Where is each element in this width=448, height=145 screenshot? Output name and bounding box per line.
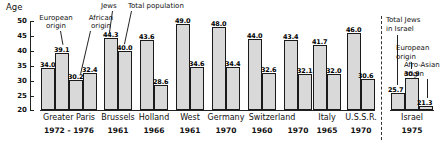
- group-year-greater-paris: 1972 - 1976: [34, 126, 104, 135]
- group-year-holland: 1966: [134, 126, 174, 135]
- y-tick-20: 20: [13, 106, 27, 114]
- bar-value: 34.6: [189, 60, 204, 68]
- group-year-ussr: 1970: [341, 126, 381, 135]
- bar-value: 40.0: [117, 44, 132, 52]
- bar-greater-paris-european-total: [55, 53, 69, 110]
- bar-value: 41.7: [312, 38, 327, 46]
- bar-west-total: [190, 67, 204, 110]
- bar-value: 21.3: [417, 99, 432, 107]
- annotation-jews: Jews: [101, 2, 117, 11]
- bar-switzerland-1970-jews: [284, 40, 298, 110]
- annotation-european-origin-left-line2: origin: [33, 22, 79, 31]
- bar-ussr-total: [361, 79, 375, 110]
- x-axis-baseline: [40, 110, 375, 111]
- group-year-israel: 1975: [392, 126, 432, 135]
- y-tick-25: 25: [13, 92, 27, 100]
- leader-total-population: [124, 11, 132, 44]
- bar-value: 28.6: [153, 78, 168, 86]
- bar-brussels-jews: [104, 38, 118, 110]
- group-label-ussr: U.S.S.R.: [341, 113, 381, 122]
- bar-holland-total: [154, 85, 168, 110]
- bar-value: 48.0: [211, 20, 226, 28]
- y-tickmark-20: [31, 110, 34, 111]
- group-year-switzerland-1960: 1960: [242, 126, 282, 135]
- annotation-afro-asian-origin-israel-line2: origin: [404, 70, 424, 79]
- y-tick-45: 45: [13, 32, 27, 40]
- group-label-germany: Germany: [206, 113, 246, 122]
- bar-brussels-total: [118, 51, 132, 110]
- annotation-european-origin-israel-line1: European: [396, 44, 429, 53]
- bar-italy-jews: [313, 45, 327, 110]
- bar-value: 32.0: [326, 67, 341, 75]
- group-label-israel: Israel: [392, 113, 432, 122]
- group-label-holland: Holland: [134, 113, 174, 122]
- y-tickmark-45: [31, 36, 34, 37]
- bar-greater-paris-african-jews: [69, 80, 83, 110]
- y-tick-40: 40: [13, 47, 27, 55]
- bar-value: 44.3: [103, 31, 118, 39]
- y-tick-50: 50: [13, 17, 27, 25]
- bar-germany-jews: [212, 27, 226, 110]
- y-tickmark-40: [31, 51, 34, 52]
- annotation-total-jews-israel-line1: Total Jews: [386, 16, 420, 25]
- bar-value: 34.4: [225, 60, 240, 68]
- y-tick-30: 30: [13, 77, 27, 85]
- bar-germany-total: [226, 67, 240, 110]
- group-year-brussels: 1961: [98, 126, 138, 135]
- bar-value: 32.6: [261, 66, 276, 74]
- bar-west-jews: [176, 24, 190, 110]
- chart-canvas: Age 50 45 40 35 30 25 20 34.0 39.1 30.2 …: [0, 0, 448, 145]
- bar-value: 46.0: [346, 26, 361, 34]
- bar-value: 44.0: [247, 32, 262, 40]
- y-axis-title: Age: [6, 2, 22, 12]
- section-divider: [381, 16, 382, 140]
- group-label-switzerland: Switzerland: [242, 113, 302, 122]
- bar-israel-total-jews: [391, 93, 405, 110]
- bar-value: 49.0: [175, 17, 190, 25]
- leader-european-origin-left: [60, 31, 63, 45]
- group-label-brussels: Brussels: [98, 113, 138, 122]
- group-label-greater-paris: Greater Paris: [34, 113, 104, 122]
- bar-holland-jews: [140, 40, 154, 110]
- bar-value: 30.6: [358, 72, 373, 80]
- annotation-total-population: Total population: [128, 2, 184, 11]
- bar-value: 43.6: [139, 33, 154, 41]
- leader-afro-asian-origin-israel: [427, 79, 428, 98]
- y-tickmark-35: [31, 66, 34, 67]
- y-tick-35: 35: [13, 62, 27, 70]
- bar-value: 32.4: [82, 66, 97, 74]
- bar-value: 30.2: [68, 73, 83, 81]
- annotation-total-jews-israel-line2: in Israel: [386, 25, 414, 34]
- bar-greater-paris-european-jews: [41, 68, 55, 110]
- bar-switzerland-1960-total: [262, 73, 276, 110]
- y-tickmark-30: [31, 81, 34, 82]
- y-tickmark-25: [31, 96, 34, 97]
- bar-value: 25.7: [388, 86, 403, 94]
- bar-switzerland-1960-jews: [248, 39, 262, 110]
- annotation-afro-asian-origin-israel-line1: Afro-Asian: [404, 61, 440, 70]
- bar-value: 39.1: [54, 46, 69, 54]
- bar-greater-paris-african-total: [83, 73, 97, 110]
- group-year-germany: 1970: [206, 126, 246, 135]
- group-year-west: 1961: [172, 126, 208, 135]
- bar-value: 34.0: [40, 61, 55, 69]
- x-axis-baseline-israel: [390, 110, 434, 111]
- group-label-west: West: [172, 113, 208, 122]
- bar-italy-total: [327, 74, 341, 110]
- bar-value: 32.1: [297, 67, 312, 75]
- bar-value: 43.4: [283, 33, 298, 41]
- annotation-african-origin-left-line2: origin: [80, 22, 122, 31]
- bar-switzerland-1970-total: [298, 74, 312, 110]
